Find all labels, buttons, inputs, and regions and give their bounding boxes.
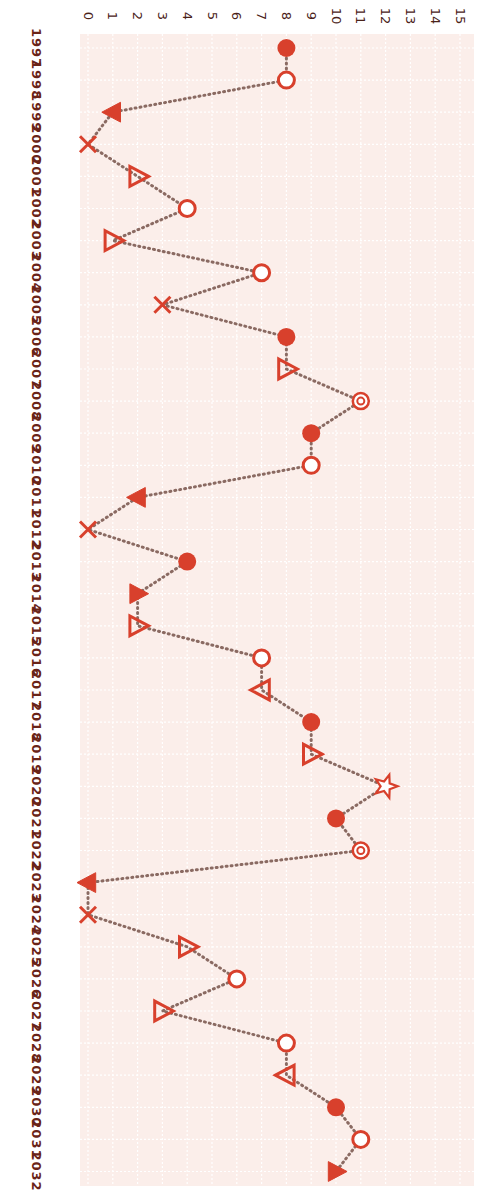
value-tick-label: 15 <box>453 8 468 25</box>
value-tick-label: 8 <box>279 12 294 20</box>
data-point-open-circle-icon <box>303 457 319 473</box>
data-point-filled-circle-icon <box>277 39 295 57</box>
data-point-open-circle-icon <box>353 1131 369 1147</box>
value-tick-label: 3 <box>155 12 170 20</box>
value-tick-label: 5 <box>205 12 220 20</box>
value-tick-label: 6 <box>229 12 244 20</box>
value-tick-label: 11 <box>353 8 368 25</box>
data-point-filled-circle-icon <box>302 713 320 731</box>
value-tick-label: 1 <box>105 12 120 20</box>
data-point-open-circle-icon <box>278 72 294 88</box>
year-tick-label: 2032 <box>29 1151 44 1191</box>
data-point-open-circle-icon <box>278 1035 294 1051</box>
value-tick-label: 12 <box>378 8 393 25</box>
value-axis-ticks: 0123456789101112131415 <box>81 8 468 25</box>
value-tick-label: 10 <box>329 8 344 25</box>
data-point-target-icon <box>353 393 369 409</box>
value-tick-label: 0 <box>81 12 96 20</box>
data-point-filled-circle-icon <box>327 1098 345 1116</box>
data-point-filled-circle-icon <box>277 328 295 346</box>
value-tick-label: 14 <box>428 8 443 25</box>
data-point-open-circle-icon <box>179 201 195 217</box>
year-axis-ticks: 1997199819992000200120022003200420052006… <box>29 28 44 1191</box>
data-point-filled-circle-icon <box>327 809 345 827</box>
value-tick-label: 9 <box>304 12 319 20</box>
value-tick-label: 2 <box>130 12 145 20</box>
value-tick-label: 4 <box>180 12 195 20</box>
data-point-open-circle-icon <box>229 971 245 987</box>
data-point-filled-circle-icon <box>178 553 196 571</box>
value-tick-label: 13 <box>403 8 418 25</box>
value-tick-label: 7 <box>254 12 269 20</box>
data-point-target-icon <box>353 843 369 859</box>
data-point-open-circle-icon <box>254 650 270 666</box>
chart-svg: 0123456789101112131415 19971998199920002… <box>0 0 478 1191</box>
chart: 0123456789101112131415 19971998199920002… <box>0 0 478 1191</box>
plot-background <box>80 34 474 1186</box>
data-point-open-circle-icon <box>254 265 270 281</box>
data-point-filled-circle-icon <box>302 424 320 442</box>
